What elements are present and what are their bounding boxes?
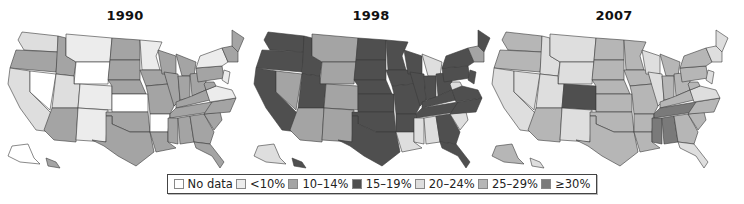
- state-sd: [592, 60, 624, 80]
- state-nd: [356, 38, 386, 60]
- state-wa: [18, 32, 58, 52]
- legend-label: 10–14%: [302, 177, 348, 191]
- map-1990: 1990: [0, 0, 250, 170]
- state-wy: [74, 62, 110, 84]
- state-wy: [558, 62, 594, 84]
- legend-item-no-data: No data: [174, 177, 233, 191]
- us-map: [0, 28, 250, 170]
- state-nm: [560, 108, 592, 142]
- legend-swatch: [415, 179, 425, 189]
- legend-swatch: [541, 179, 551, 189]
- state-or: [494, 50, 542, 72]
- state-pa: [442, 66, 470, 82]
- legend-label: <10%: [250, 177, 285, 191]
- state-fl: [194, 142, 224, 168]
- state-ar: [150, 114, 170, 132]
- state-or: [256, 50, 304, 72]
- state-mi: [422, 54, 442, 76]
- state-nm: [322, 108, 354, 142]
- state-or: [10, 50, 58, 72]
- map-title: 2007: [484, 8, 744, 23]
- state-ar: [396, 114, 416, 132]
- state-in: [424, 76, 436, 100]
- state-ms: [414, 118, 424, 144]
- state-hi: [530, 158, 544, 168]
- state-ks: [358, 94, 394, 112]
- map-title: 1990: [0, 8, 250, 23]
- legend-item-25-29: 25–29%: [478, 177, 538, 191]
- legend-swatch: [352, 179, 362, 189]
- state-co: [324, 84, 358, 110]
- state-ar: [634, 114, 654, 132]
- state-sd: [108, 60, 140, 80]
- legend-item-lt10: <10%: [236, 177, 285, 191]
- state-ak: [492, 144, 524, 164]
- map-title: 1998: [246, 8, 496, 23]
- state-mi: [660, 54, 680, 76]
- legend-label: 20–24%: [429, 177, 475, 191]
- state-ks: [596, 94, 632, 112]
- legend-label: 15–19%: [366, 177, 412, 191]
- state-co: [562, 84, 596, 110]
- legend-label: 25–29%: [492, 177, 538, 191]
- legend-label: ≥30%: [555, 177, 590, 191]
- state-ms: [652, 118, 662, 144]
- legend-swatch: [478, 179, 488, 189]
- legend: No data <10% 10–14% 15–19% 20–24% 25–29%…: [167, 174, 597, 194]
- state-mt: [550, 34, 596, 62]
- legend-swatch: [288, 179, 298, 189]
- state-pa: [680, 66, 708, 82]
- state-mi: [176, 54, 196, 76]
- legend-swatch: [236, 179, 246, 189]
- map-1998: 1998: [246, 0, 496, 170]
- state-nm: [76, 108, 108, 142]
- state-wy: [320, 62, 356, 84]
- state-ne: [592, 80, 630, 94]
- state-in: [662, 76, 674, 100]
- state-nd: [594, 38, 624, 60]
- legend-item-20-24: 20–24%: [415, 177, 475, 191]
- state-mt: [312, 34, 358, 62]
- legend-item-30-plus: ≥30%: [541, 177, 590, 191]
- legend-label: No data: [188, 177, 233, 191]
- state-ne: [108, 80, 146, 94]
- state-in: [178, 76, 190, 100]
- state-nd: [110, 38, 140, 60]
- state-hi: [292, 158, 306, 168]
- state-hi: [46, 158, 60, 168]
- state-ak: [8, 144, 40, 164]
- state-ks: [112, 94, 148, 112]
- legend-item-10-14: 10–14%: [288, 177, 348, 191]
- map-2007: 2007: [484, 0, 744, 170]
- state-fl: [440, 142, 470, 168]
- state-ne: [354, 80, 392, 94]
- state-ms: [168, 118, 178, 144]
- state-wa: [502, 32, 542, 52]
- legend-swatch: [174, 179, 184, 189]
- legend-item-15-19: 15–19%: [352, 177, 412, 191]
- state-ak: [254, 144, 286, 164]
- state-wa: [264, 32, 304, 52]
- us-map: [246, 28, 496, 170]
- state-sd: [354, 60, 386, 80]
- us-map: [484, 28, 744, 170]
- state-co: [78, 84, 112, 110]
- state-mt: [66, 34, 112, 62]
- state-fl: [678, 142, 708, 168]
- state-pa: [196, 66, 224, 82]
